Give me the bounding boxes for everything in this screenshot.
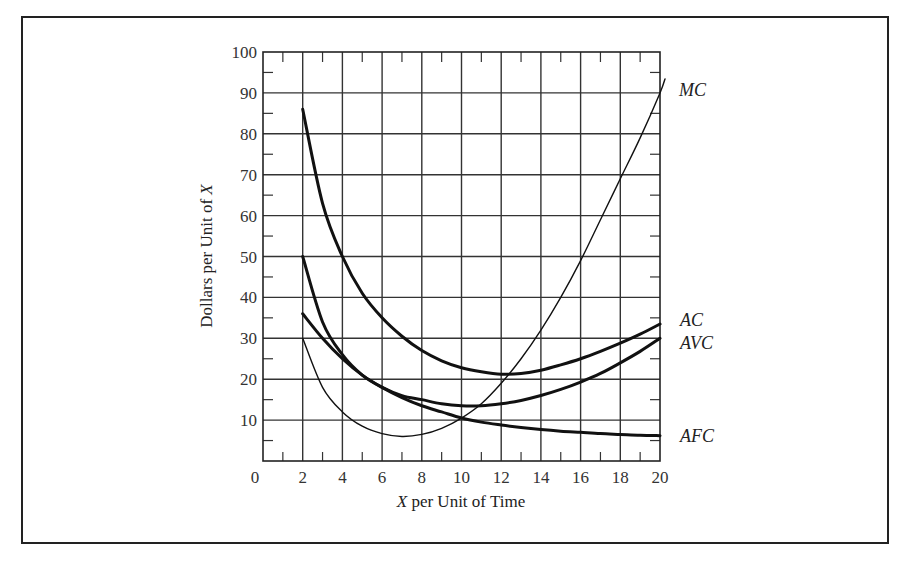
avc-label: AVC (679, 333, 714, 353)
mc-label: MC (678, 80, 707, 100)
svg-text:14: 14 (532, 468, 550, 487)
afc-curve (303, 314, 660, 436)
svg-text:90: 90 (240, 84, 257, 103)
x-axis-title: X per Unit of Time (396, 492, 525, 511)
svg-text:8: 8 (418, 468, 427, 487)
ac-curve (303, 109, 660, 374)
svg-text:20: 20 (652, 468, 669, 487)
svg-text:10: 10 (240, 411, 257, 430)
svg-text:2: 2 (298, 468, 307, 487)
svg-text:100: 100 (232, 43, 258, 62)
avc-curve (303, 257, 660, 407)
grid-lines (263, 52, 660, 461)
cost-curves-chart: 02468101214161820 102030405060708090100 … (0, 0, 909, 563)
svg-text:6: 6 (378, 468, 387, 487)
svg-text:50: 50 (240, 248, 257, 267)
mc-curve (303, 79, 665, 437)
svg-text:70: 70 (240, 166, 257, 185)
svg-text:30: 30 (240, 329, 257, 348)
cost-curves (303, 79, 665, 437)
y-tick-labels: 102030405060708090100 (232, 43, 258, 430)
svg-text:4: 4 (338, 468, 347, 487)
svg-text:20: 20 (240, 370, 257, 389)
ac-label: AC (679, 310, 704, 330)
svg-text:60: 60 (240, 207, 257, 226)
svg-text:40: 40 (240, 288, 257, 307)
svg-text:0: 0 (251, 468, 260, 487)
svg-text:18: 18 (612, 468, 629, 487)
svg-text:10: 10 (453, 468, 470, 487)
afc-label: AFC (679, 426, 715, 446)
svg-text:80: 80 (240, 125, 257, 144)
svg-text:12: 12 (493, 468, 510, 487)
svg-text:16: 16 (572, 468, 589, 487)
y-axis-title: Dollars per Unit of X (197, 184, 216, 328)
x-tick-labels: 02468101214161820 (251, 468, 669, 487)
